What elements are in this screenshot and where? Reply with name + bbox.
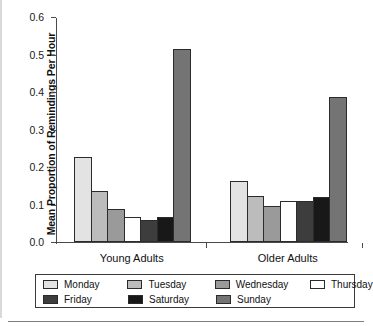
y-tick-label: 0.0: [29, 236, 44, 248]
legend: MondayTuesdayWednesdayThursday FridaySat…: [35, 274, 355, 308]
legend-item[interactable]: Wednesday: [208, 277, 303, 292]
legend-label: Sunday: [237, 294, 271, 305]
legend-swatch-icon: [310, 280, 325, 289]
bar: [74, 157, 92, 242]
page-left-edge: [0, 0, 2, 318]
legend-swatch-icon: [43, 280, 58, 289]
bar: [247, 196, 265, 242]
y-tick: 0.3: [51, 130, 56, 131]
legend-swatch-icon: [128, 295, 143, 304]
legend-swatch-icon: [216, 295, 231, 304]
legend-item[interactable]: Thursday: [303, 277, 354, 292]
bar: [173, 49, 191, 242]
legend-item[interactable]: Friday: [36, 292, 121, 307]
legend-item[interactable]: Sunday: [209, 292, 305, 307]
y-tick: 0.0: [51, 242, 56, 243]
y-tick-label: 0.4: [29, 86, 44, 98]
y-tick: 0.6: [51, 17, 56, 18]
bar: [263, 206, 281, 242]
legend-label: Monday: [64, 279, 100, 290]
x-tick: [362, 243, 363, 248]
y-tick: 0.5: [51, 55, 56, 56]
y-tick: 0.1: [51, 205, 56, 206]
bar: [280, 201, 298, 242]
legend-item[interactable]: Tuesday: [120, 277, 207, 292]
bar: [107, 209, 125, 242]
legend-label: Tuesday: [148, 279, 186, 290]
y-tick: 0.2: [51, 167, 56, 168]
bar: [91, 191, 109, 242]
y-tick-label: 0.1: [29, 199, 44, 211]
y-tick-label: 0.5: [29, 49, 44, 61]
x-axis-group-label: Young Adults: [72, 252, 192, 264]
plot-area: 0.00.10.20.30.40.50.6: [56, 18, 348, 243]
bar: [230, 181, 248, 242]
bar: [124, 217, 142, 242]
legend-row: FridaySaturdaySunday: [36, 292, 354, 307]
page-bottom-rule: [8, 321, 364, 322]
legend-row: MondayTuesdayWednesdayThursday: [36, 277, 354, 292]
y-tick-label: 0.6: [29, 11, 44, 23]
bar: [157, 217, 175, 242]
y-tick-label: 0.2: [29, 161, 44, 173]
legend-swatch-icon: [215, 280, 230, 289]
legend-label: Thursday: [331, 279, 373, 290]
legend-label: Saturday: [149, 294, 189, 305]
bar: [296, 201, 314, 242]
bar: [313, 197, 331, 242]
bar: [329, 97, 347, 242]
legend-swatch-icon: [127, 280, 142, 289]
legend-label: Wednesday: [236, 279, 289, 290]
y-axis-line: [56, 18, 57, 244]
bar: [140, 220, 158, 242]
x-axis-line: [56, 242, 348, 243]
legend-label: Friday: [64, 294, 92, 305]
legend-item[interactable]: Monday: [36, 277, 120, 292]
legend-swatch-icon: [43, 295, 58, 304]
x-axis-group-label: Older Adults: [228, 252, 348, 264]
y-tick-label: 0.3: [29, 124, 44, 136]
x-tick: [206, 243, 207, 248]
y-tick: 0.4: [51, 92, 56, 93]
legend-item[interactable]: Saturday: [121, 292, 209, 307]
